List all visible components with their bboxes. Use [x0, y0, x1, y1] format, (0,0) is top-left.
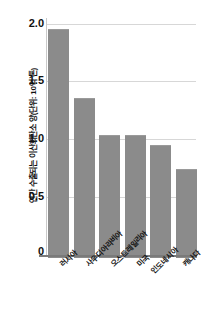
- bar-indonesia[interactable]: [150, 145, 171, 258]
- y-tick-0-5: 0.5: [14, 191, 44, 202]
- y-tick-2-0: 2.0: [14, 18, 44, 29]
- gridline-1-5: [47, 81, 196, 82]
- y-tick-1-0: 1.0: [14, 133, 44, 144]
- bar-russia[interactable]: [48, 29, 69, 258]
- bar-saudi-arabia[interactable]: [74, 98, 95, 258]
- bar-canada[interactable]: [176, 169, 197, 258]
- gridline-2-0: [47, 24, 196, 25]
- bar-chart: 연간 수출되는 이산화탄소 양(단위: 10억 톤) 2.0 1.5 1.0 0…: [0, 0, 202, 325]
- plot-area: [47, 18, 196, 258]
- x-axis-tick-labels: 러시아 사우디아라비아 오스트레일리아 미국 인도네시아 캐나다: [0, 258, 202, 325]
- gridline-0-5: [47, 197, 196, 198]
- y-tick-1-5: 1.5: [14, 75, 44, 86]
- gridline-1-0: [47, 139, 196, 140]
